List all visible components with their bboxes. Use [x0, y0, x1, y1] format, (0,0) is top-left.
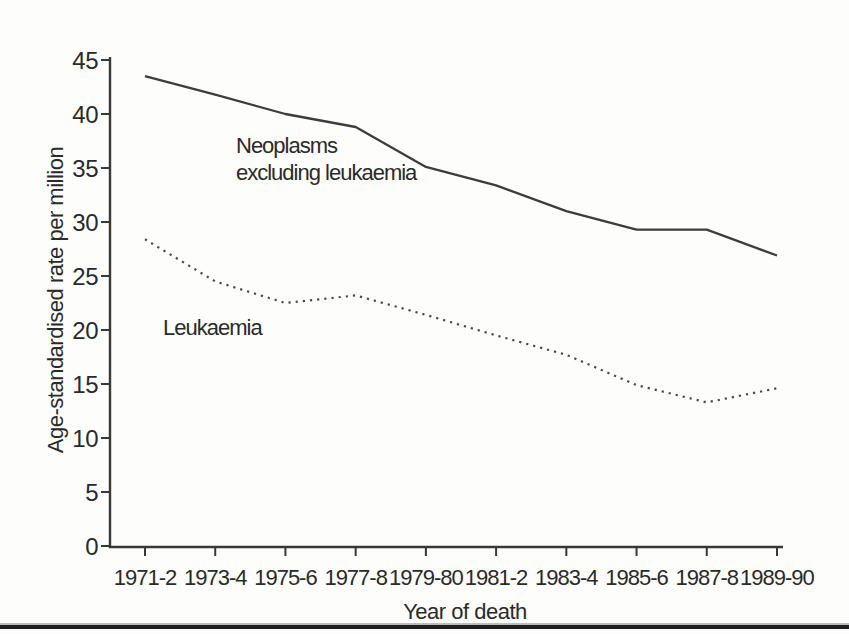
y-tick-label: 45: [72, 47, 98, 74]
y-tick-label: 30: [72, 209, 98, 236]
axes: [110, 57, 783, 547]
y-tick-label: 40: [72, 101, 98, 128]
y-tick-label: 0: [85, 533, 98, 560]
x-tick-label: 1971-2: [114, 565, 177, 590]
y-tick-label: 15: [72, 371, 98, 398]
y-tick-label: 20: [72, 317, 98, 344]
y-tick-label: 10: [72, 425, 98, 452]
y-tick-label: 25: [72, 263, 98, 290]
chart-plot: 0510152025303540451971-21973-41975-61977…: [0, 0, 849, 634]
x-tick-label: 1981-2: [465, 565, 528, 590]
x-tick-label: 1989-90: [740, 565, 815, 590]
annotation-leukaemia-label: Leukaemia: [163, 314, 262, 341]
x-tick-label: 1975-6: [254, 565, 317, 590]
bottom-rule: [0, 623, 849, 629]
x-tick-label: 1987-8: [676, 565, 739, 590]
x-tick-label: 1973-4: [184, 565, 247, 590]
y-tick-label: 5: [85, 479, 98, 506]
y-axis-title: Age-standardised rate per million: [43, 147, 69, 453]
y-tick-label: 35: [72, 155, 98, 182]
x-tick-label: 1977-8: [324, 565, 387, 590]
x-tick-label: 1979-80: [389, 565, 464, 590]
figure: 0510152025303540451971-21973-41975-61977…: [0, 0, 849, 634]
annotation-neoplasms-label: Neoplasms excluding leukaemia: [236, 132, 416, 186]
x-tick-label: 1983-4: [535, 565, 598, 590]
x-tick-label: 1985-6: [605, 565, 668, 590]
x-axis-title: Year of death: [403, 599, 527, 625]
